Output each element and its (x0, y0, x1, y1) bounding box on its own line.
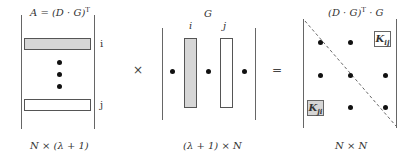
kij-sub: ij (384, 38, 389, 47)
kji-sub: ji (317, 107, 322, 116)
matrix-entry-dot (348, 105, 353, 110)
matrix-k-dimension: N × N (335, 140, 367, 151)
diagonal-dashed-line (0, 0, 418, 160)
kij-entry-box: Kij (374, 31, 391, 47)
matrix-entry-dot (383, 73, 388, 78)
kji-main: K (309, 102, 318, 113)
matrix-entry-dot (318, 40, 323, 45)
kij-main: K (376, 33, 385, 44)
matrix-entry-dot (383, 105, 388, 110)
matrix-entry-dot (318, 73, 323, 78)
matrix-entry-dot (348, 40, 353, 45)
kji-entry-box: Kji (307, 100, 324, 116)
matrix-entry-dot (348, 73, 353, 78)
